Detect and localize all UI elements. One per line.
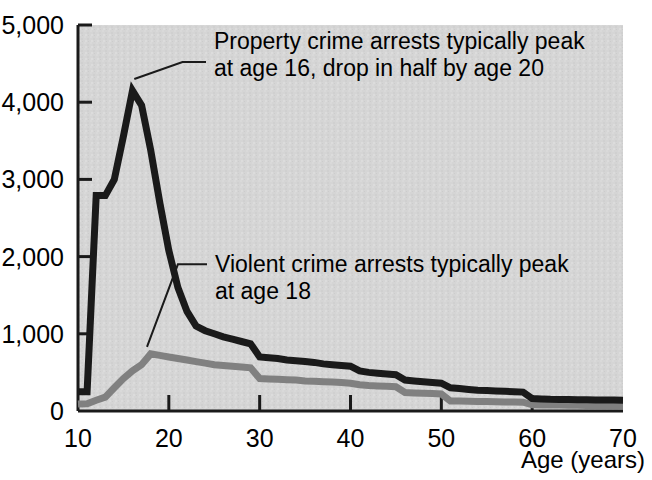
y-tick-label: 2,000 bbox=[1, 243, 64, 271]
x-tick-label: 10 bbox=[64, 424, 92, 452]
y-tick-label: 3,000 bbox=[1, 165, 64, 193]
y-tick-label: 5,000 bbox=[1, 11, 64, 39]
violent-annotation-line-2: at age 18 bbox=[215, 278, 311, 304]
y-tick-label: 1,000 bbox=[1, 320, 64, 348]
x-tick-label: 20 bbox=[155, 424, 183, 452]
x-tick-label: 50 bbox=[427, 424, 455, 452]
x-axis-title: Age (years) bbox=[521, 446, 645, 473]
x-tick-label: 40 bbox=[337, 424, 365, 452]
chart-canvas: 01,0002,0003,0004,0005,000 1020304050607… bbox=[0, 0, 652, 480]
violent-annotation-line-1: Violent crime arrests typically peak bbox=[215, 251, 569, 277]
property-annotation-line-2: at age 16, drop in half by age 20 bbox=[214, 55, 544, 81]
y-tick-label: 0 bbox=[50, 397, 64, 425]
property-annotation-line-1: Property crime arrests typically peak bbox=[214, 28, 585, 54]
arrest-rate-by-age-chart: 01,0002,0003,0004,0005,000 1020304050607… bbox=[0, 0, 652, 480]
y-tick-label: 4,000 bbox=[1, 88, 64, 116]
x-tick-label: 30 bbox=[246, 424, 274, 452]
